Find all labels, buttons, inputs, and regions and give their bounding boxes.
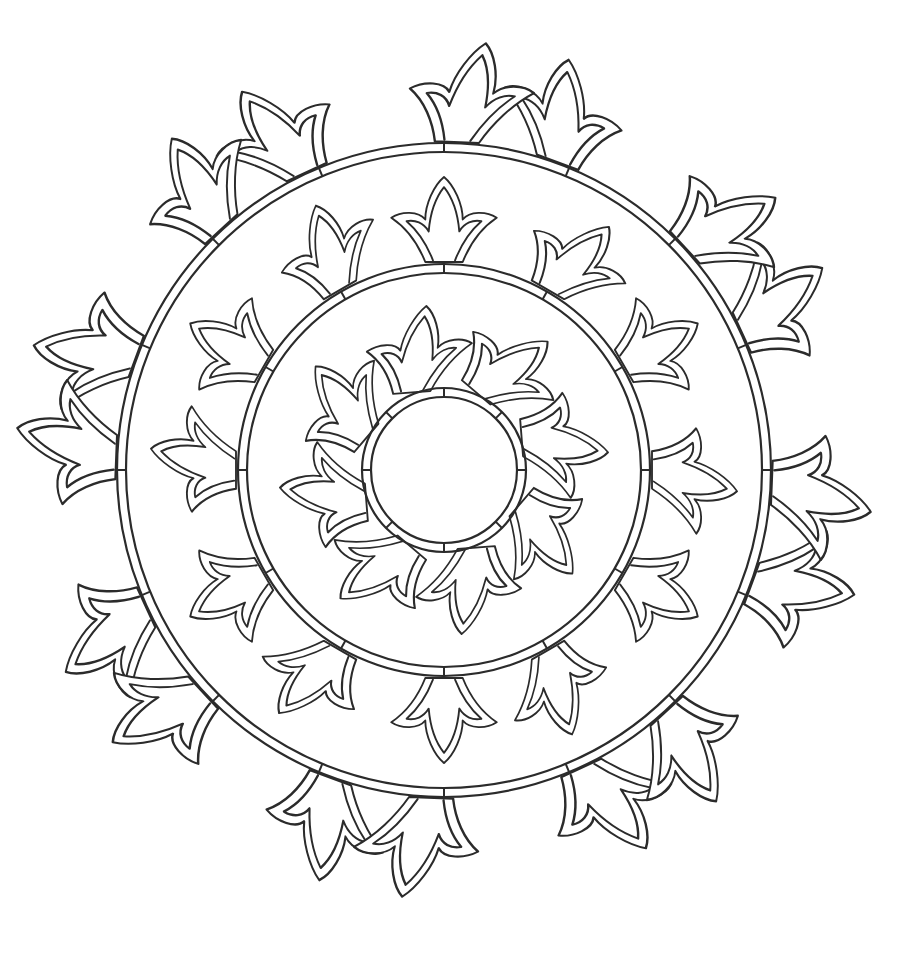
tulip-motif (598, 528, 724, 662)
ring-segment-tick (566, 764, 569, 772)
ring-segment-tick (319, 168, 322, 176)
ring-segment-tick (386, 522, 392, 528)
tulip-motif (151, 396, 236, 523)
ring-segment-tick (213, 239, 219, 245)
ring-segment-tick (543, 292, 548, 300)
tulip-motif (652, 417, 737, 544)
tulip-motif (391, 177, 496, 262)
center-circle (372, 398, 516, 542)
ring-segment-tick (615, 569, 623, 574)
ring-segment-tick (669, 239, 675, 245)
ring-segment-tick (142, 345, 150, 348)
tulip-motif (598, 278, 724, 412)
ring-segment-tick (669, 695, 675, 701)
ring-segment-tick (738, 592, 746, 595)
tulip-motif (340, 794, 493, 900)
ring-segment-tick (319, 764, 322, 772)
tulip-motif (164, 278, 290, 412)
ring-segment-tick (496, 522, 502, 528)
ring-segment-tick (496, 412, 502, 418)
ring-segment-tick (341, 292, 346, 300)
mandala-artwork (0, 0, 911, 954)
tulip-motif (395, 40, 548, 146)
ring-segment-tick (341, 641, 346, 649)
tulip-motif (164, 528, 290, 662)
ring-segment-tick (738, 345, 746, 348)
ring-segment-tick (615, 367, 623, 372)
ring-segment-tick (543, 641, 548, 649)
ring-segment-tick (142, 592, 150, 595)
tulip-motif (391, 678, 496, 763)
ring-segment-tick (266, 367, 274, 372)
tulip-motif (234, 613, 386, 750)
ring-segment-tick (266, 569, 274, 574)
tulip-motif (502, 190, 654, 327)
ring-segment-tick (213, 695, 219, 701)
tulip-motif (768, 421, 874, 574)
ring-segment-tick (566, 168, 569, 176)
tulip-motif (14, 366, 120, 519)
ring-segment-tick (386, 412, 392, 418)
